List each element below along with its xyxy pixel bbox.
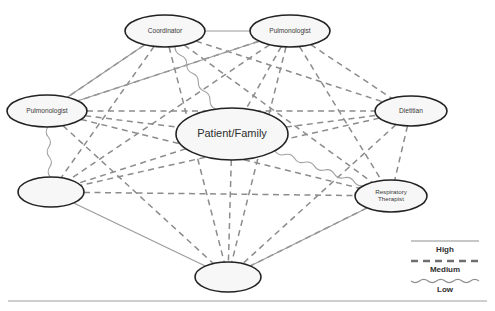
node-coordinator[interactable]: Coordinator (125, 15, 205, 47)
edge-pulmonologist_top-patient_family (246, 47, 281, 109)
edge-coordinator-dietitian (196, 41, 383, 102)
node-pulmonologist_left[interactable]: Pulmonologist (7, 95, 87, 127)
legend-label-high: High (436, 245, 454, 254)
legend-swatch-low (411, 279, 479, 282)
node-label-coordinator: Coordinator (148, 27, 183, 34)
nodes-layer: CoordinatorPulmonologistPulmonologistDie… (7, 15, 447, 292)
edge-pulmonologist_left-coordinator (67, 45, 144, 97)
legend-label-low: Low (437, 285, 454, 294)
node-patient_family[interactable]: Patient/Family (176, 108, 288, 160)
edge-pulmonologist_top-respiratory_therapist (300, 47, 382, 181)
edge-patient_family-unlabeled_bottom (228, 160, 231, 262)
node-shape-unlabeled_bottom (195, 262, 261, 292)
edge-pulmonologist_left-unlabeled_left (46, 127, 51, 177)
node-pulmonologist_top[interactable]: Pulmonologist (250, 15, 330, 47)
node-label-respiratory_therapist: Therapist (378, 195, 404, 202)
edge-unlabeled_bottom-respiratory_therapist (250, 208, 367, 266)
node-label-dietitian: Dietitian (399, 107, 423, 114)
network-canvas: CoordinatorPulmonologistPulmonologistDie… (0, 0, 495, 311)
node-unlabeled_bottom[interactable] (195, 262, 261, 292)
legend-label-medium: Medium (430, 265, 460, 274)
edge-unlabeled_left-unlabeled_bottom (74, 203, 206, 266)
edge-dietitian-respiratory_therapist (395, 126, 408, 180)
node-unlabeled_left[interactable] (18, 177, 84, 207)
node-respiratory_therapist[interactable]: RespiratoryTherapist (355, 180, 427, 212)
node-shape-unlabeled_left (18, 177, 84, 207)
node-label-pulmonologist_top: Pulmonologist (269, 27, 311, 35)
sociogram-diagram: CoordinatorPulmonologistPulmonologistDie… (0, 0, 495, 311)
node-label-respiratory_therapist: Respiratory (375, 188, 408, 195)
edge-pulmonologist_left-patient_family (85, 116, 178, 128)
edge-coordinator-patient_family (175, 46, 216, 109)
edge-patient_family-respiratory_therapist (275, 151, 364, 186)
edge-pulmonologist_top-dietitian (311, 45, 392, 99)
legend: High Medium Low (411, 241, 479, 294)
node-label-patient_family: Patient/Family (197, 127, 267, 139)
node-dietitian[interactable]: Dietitian (375, 96, 447, 126)
node-label-pulmonologist_left: Pulmonologist (26, 107, 68, 115)
edge-unlabeled_left-respiratory_therapist (84, 192, 355, 195)
edge-patient_family-dietitian (286, 115, 377, 127)
